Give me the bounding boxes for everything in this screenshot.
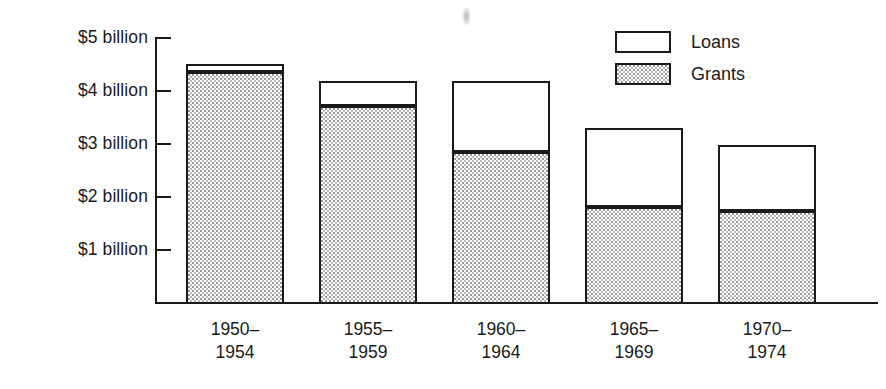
x-label-line-start: 1960–: [438, 318, 564, 341]
x-label-line-end: 1959: [305, 341, 431, 364]
legend-item-grants: Grants: [615, 58, 745, 90]
stacked-bar-chart: $1 billion$2 billion$3 billion$4 billion…: [0, 0, 886, 389]
legend-swatch-loans-icon: [615, 31, 671, 53]
x-label-line-start: 1965–: [571, 318, 697, 341]
legend-item-loans: Loans: [615, 26, 745, 58]
x-label-line-start: 1955–: [305, 318, 431, 341]
x-axis-tick-label: 1955–1959: [305, 318, 431, 364]
x-axis-tick-label: 1965–1969: [571, 318, 697, 364]
bar-segment-grants: [585, 207, 683, 304]
legend-swatch-grants-icon: [615, 63, 671, 85]
bar-segment-loans: [319, 81, 417, 106]
bar-segment-grants: [718, 211, 816, 304]
legend-label-grants: Grants: [691, 65, 745, 83]
bar-segment-loans: [585, 128, 683, 207]
x-axis-tick-label: 1970–1974: [704, 318, 830, 364]
x-axis-tick-label: 1960–1964: [438, 318, 564, 364]
chart-legend: Loans Grants: [615, 26, 745, 90]
bar-segment-grants: [319, 106, 417, 304]
x-label-line-end: 1974: [704, 341, 830, 364]
x-axis-tick-label: 1950–1954: [172, 318, 298, 364]
x-label-line-end: 1964: [438, 341, 564, 364]
x-label-line-start: 1970–: [704, 318, 830, 341]
bar-segment-grants: [452, 152, 550, 304]
legend-label-loans: Loans: [691, 33, 740, 51]
x-label-line-end: 1954: [172, 341, 298, 364]
bar-segment-loans: [452, 81, 550, 152]
x-label-line-end: 1969: [571, 341, 697, 364]
x-label-line-start: 1950–: [172, 318, 298, 341]
bar-segment-grants: [186, 72, 284, 304]
bar-segment-loans: [718, 145, 816, 211]
bar-segment-loans: [186, 64, 284, 72]
